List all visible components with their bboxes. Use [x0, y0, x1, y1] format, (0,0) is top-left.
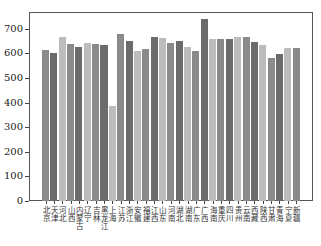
- x-tick-label: 云南: [242, 206, 250, 222]
- y-tick-label: 500: [0, 73, 23, 83]
- x-tick-label: 广西: [200, 206, 208, 222]
- bar: [184, 47, 191, 201]
- bar: [276, 54, 283, 201]
- bar: [126, 41, 133, 201]
- x-tick: [104, 201, 105, 204]
- x-tick: [171, 201, 172, 204]
- x-tick: [71, 201, 72, 204]
- bar: [142, 49, 149, 201]
- bar: [67, 44, 74, 201]
- bar: [226, 39, 233, 201]
- x-tick: [213, 201, 214, 204]
- x-tick: [271, 201, 272, 204]
- y-tick: [25, 176, 29, 177]
- x-tick-label: 福建: [142, 206, 150, 222]
- x-tick: [137, 201, 138, 204]
- x-tick: [196, 201, 197, 204]
- x-tick-label: 江苏: [117, 206, 125, 222]
- x-tick: [121, 201, 122, 204]
- bar: [234, 37, 241, 201]
- bar: [75, 47, 82, 201]
- y-tick-label: 200: [0, 147, 23, 157]
- y-tick-label: 600: [0, 48, 23, 58]
- x-tick-label: 内蒙古: [75, 206, 83, 230]
- x-tick-label: 宁夏: [284, 206, 292, 222]
- x-tick-label: 湖北: [175, 206, 183, 222]
- bar: [268, 58, 275, 201]
- x-tick-label: 辽宁: [83, 206, 91, 222]
- y-tick: [25, 152, 29, 153]
- x-tick: [221, 201, 222, 204]
- x-tick: [238, 201, 239, 204]
- x-tick-label: 山西: [67, 206, 75, 222]
- x-tick-label: 北京: [42, 206, 50, 222]
- bar: [84, 43, 91, 201]
- y-tick-label: 100: [0, 171, 23, 181]
- bar: [134, 51, 141, 201]
- x-tick: [146, 201, 147, 204]
- bar: [92, 44, 99, 201]
- x-tick: [129, 201, 130, 204]
- x-tick-label: 河南: [167, 206, 175, 222]
- x-tick-label: 吉林: [92, 206, 100, 222]
- x-tick-label: 贵州: [234, 206, 242, 222]
- x-tick: [46, 201, 47, 204]
- y-tick: [25, 127, 29, 128]
- y-tick-label: 400: [0, 98, 23, 108]
- y-tick: [25, 29, 29, 30]
- bar: [217, 39, 224, 201]
- y-tick-label: 300: [0, 122, 23, 132]
- x-tick-label: 海南: [209, 206, 217, 222]
- x-tick-label: 河北: [58, 206, 66, 222]
- x-tick: [87, 201, 88, 204]
- y-tick: [25, 53, 29, 54]
- bar: [151, 37, 158, 201]
- x-tick-label: 天津: [50, 206, 58, 222]
- bar: [243, 37, 250, 201]
- y-tick-label: 0: [0, 196, 23, 206]
- x-tick: [96, 201, 97, 204]
- bar: [109, 106, 116, 201]
- x-tick: [54, 201, 55, 204]
- x-tick: [229, 201, 230, 204]
- bar: [59, 37, 66, 201]
- x-tick: [62, 201, 63, 204]
- bar: [159, 38, 166, 201]
- x-tick: [254, 201, 255, 204]
- bar: [293, 48, 300, 201]
- bar: [176, 41, 183, 201]
- bar: [259, 45, 266, 201]
- bar: [100, 45, 107, 201]
- x-tick: [179, 201, 180, 204]
- x-tick-label: 陕西: [259, 206, 267, 222]
- bar: [251, 42, 258, 201]
- x-tick: [263, 201, 264, 204]
- x-tick-label: 广东: [192, 206, 200, 222]
- bar: [117, 34, 124, 201]
- bar: [209, 39, 216, 201]
- bar: [167, 43, 174, 201]
- x-tick-label: 安徽: [133, 206, 141, 222]
- x-tick: [204, 201, 205, 204]
- bar: [50, 53, 57, 201]
- x-tick-label: 湖南: [184, 206, 192, 222]
- y-tick: [25, 201, 29, 202]
- x-tick-label: 新疆: [292, 206, 300, 222]
- x-tick-label: 山东: [158, 206, 166, 222]
- x-tick: [279, 201, 280, 204]
- bar: [42, 50, 49, 201]
- x-tick: [288, 201, 289, 204]
- x-tick: [296, 201, 297, 204]
- x-tick: [154, 201, 155, 204]
- y-tick: [25, 78, 29, 79]
- x-tick: [162, 201, 163, 204]
- bar: [284, 48, 291, 201]
- x-tick-label: 黑龙江: [100, 206, 108, 230]
- x-tick-label: 四川: [225, 206, 233, 222]
- x-tick: [246, 201, 247, 204]
- x-tick-label: 西藏: [250, 206, 258, 222]
- x-tick-label: 江西: [150, 206, 158, 222]
- x-tick-label: 浙江: [125, 206, 133, 222]
- x-tick: [112, 201, 113, 204]
- x-tick-label: 上海: [108, 206, 116, 222]
